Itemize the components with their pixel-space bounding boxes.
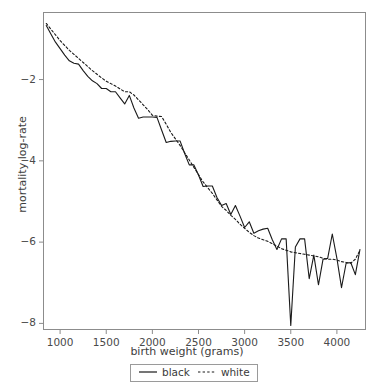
- y-axis-title: mortality log-rate: [16, 95, 29, 235]
- y-tick-marks: [39, 80, 44, 324]
- legend-entry-black: black: [138, 367, 190, 378]
- y-tick-label: −8: [6, 316, 36, 328]
- y-tick-label: −2: [6, 73, 36, 85]
- legend-swatch-dashed-icon: [197, 368, 217, 376]
- plot-area: [0, 0, 374, 385]
- legend-label-black: black: [162, 367, 190, 378]
- legend-label-white: white: [221, 367, 250, 378]
- series-line-black: [46, 26, 360, 326]
- plot-frame: [44, 13, 366, 330]
- legend-entry-white: white: [197, 367, 250, 378]
- mortality-log-rate-chart: −2−4−6−8 1000150020002500300035004000 mo…: [0, 0, 374, 385]
- chart-legend: black white: [130, 364, 258, 382]
- x-axis-title: birth weight (grams): [0, 345, 374, 358]
- series-line-white: [46, 23, 360, 263]
- x-tick-marks: [60, 330, 337, 335]
- y-tick-label: −6: [6, 235, 36, 247]
- legend-swatch-solid-icon: [138, 368, 158, 376]
